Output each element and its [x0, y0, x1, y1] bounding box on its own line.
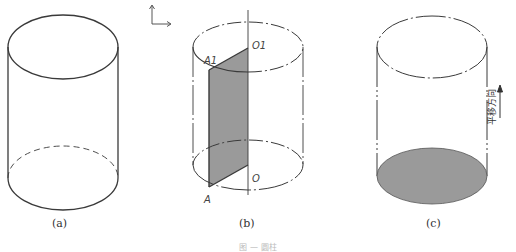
panel-c-cylinder: 平移方向 [377, 16, 503, 204]
point-o-label: O [252, 173, 260, 184]
translation-direction-arrow-icon [498, 85, 503, 118]
panel-b-label: (b) [239, 217, 255, 230]
panel-a-label: (a) [52, 217, 67, 230]
coordinate-axes-icon [150, 5, 172, 27]
point-o1-label: O1 [252, 40, 266, 51]
panel-c-label: (c) [426, 217, 441, 230]
figure-caption: 图 — 圆柱 [0, 241, 516, 252]
point-a1-label: A1 [203, 55, 217, 66]
point-a-label: A [203, 194, 211, 205]
panel-b-cylinder: A1 O1 O A [193, 10, 303, 205]
panel-a-cylinder [8, 15, 118, 210]
translation-direction-label: 平移方向 [486, 89, 497, 125]
